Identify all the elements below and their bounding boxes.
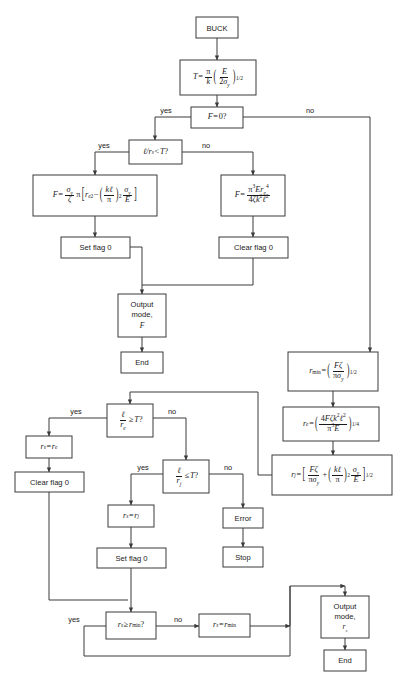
edge-label-lre-yes: yes: [70, 407, 82, 416]
edge-lrj-no: [209, 474, 243, 508]
label-error: Error: [235, 514, 252, 523]
formula-r-e: re = (4Fζk2ℓ2π3E)1/4: [284, 408, 378, 440]
label-set-flag-0-a: Set flag 0: [79, 243, 111, 252]
formula-f-euler: F = π3Ere44ζk2ℓ2: [222, 176, 284, 215]
output-rs-line3: rs: [343, 622, 348, 632]
formula-l-re-ge-t: ℓre ≥ T?: [108, 405, 152, 436]
formula-rs-eq-rmin: rs = rmin: [200, 615, 249, 636]
edge-setflag-merge: [130, 247, 142, 285]
formula-rs-eq-rj: rs = rj: [109, 506, 153, 526]
output-f-line2: mode,: [131, 310, 152, 320]
edge-lrj-yes: [131, 474, 163, 505]
label-end-b: End: [338, 656, 352, 665]
flowchart-svg: yes no yes no yes no yes no yes no BUCK …: [0, 0, 398, 678]
formula-r-j: rj = [Fζπσy + (kℓπ)2σyE]1/2: [273, 456, 391, 494]
label-clear-flag-0-a: Clear flag 0: [234, 243, 273, 252]
formula-r-min: rmin = (Fζπσy)1/2: [289, 353, 377, 390]
formula-l-rs-lt-t: ℓ/rs < T?: [130, 141, 181, 163]
text-output-mode-f: Output mode, F: [119, 295, 165, 336]
edge-label-lrs-yes: yes: [98, 141, 110, 150]
edge-fzero-yes: [155, 117, 191, 140]
edge-label-fzero-no: no: [306, 106, 314, 115]
output-f-line1: Output: [131, 300, 154, 310]
edge-label-rsrmin-no: no: [174, 615, 182, 624]
label-stop: Stop: [235, 553, 251, 562]
formula-f-zero: F = 0?: [192, 108, 242, 127]
text-output-mode-rs: Output mode, rs: [322, 597, 368, 637]
edge-label-lrj-yes: yes: [137, 463, 149, 472]
output-rs-line2: mode,: [334, 612, 355, 622]
label-buck: BUCK: [206, 24, 227, 33]
label-end-a: End: [135, 358, 149, 367]
formula-f-plastic: F = σyζ π [re2 − (kℓπ)2σyE]: [34, 176, 156, 215]
edge-lre-no: [153, 418, 186, 460]
edge-label-rsrmin-yes: yes: [68, 615, 80, 624]
label-set-flag-0-b: Set flag 0: [115, 554, 147, 563]
formula-rs-eq-re: rs = re: [27, 437, 71, 457]
edge-label-lrs-no: no: [202, 141, 210, 150]
output-f-line3: F: [140, 321, 145, 331]
edge-lrs-no: [182, 152, 253, 175]
edge-fzero-no: [243, 117, 370, 352]
edge-label-lre-no: no: [168, 407, 176, 416]
flowchart-canvas: yes no yes no yes no yes no yes no BUCK …: [0, 0, 398, 678]
output-rs-line1: Output: [334, 602, 357, 612]
edge-label-fzero-yes: yes: [160, 106, 172, 115]
edge-label-lrj-no: no: [224, 463, 232, 472]
formula-l-rj-le-t: ℓrj ≤ T?: [164, 461, 208, 492]
edge-clearflag-merge: [142, 258, 253, 285]
label-clear-flag-0-b: Clear flag 0: [30, 478, 69, 487]
formula-rs-ge-rmin: rs ≥ rmin?: [107, 613, 155, 638]
formula-t: T = πk(E2σy)1/2: [181, 61, 255, 94]
edge-lrs-yes: [95, 152, 129, 175]
edge-lre-yes: [49, 418, 107, 436]
